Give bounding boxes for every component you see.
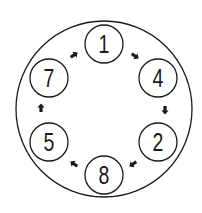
arrow-icon [69, 49, 80, 60]
node-1: 1 [85, 25, 123, 63]
node-label: 5 [44, 129, 55, 157]
arrow-icon [161, 106, 168, 115]
arrow-icon [127, 159, 138, 170]
node-label: 7 [44, 65, 55, 93]
node-8: 8 [85, 156, 123, 194]
node-2: 2 [139, 123, 177, 161]
circular-sequence-diagram: 142857 [0, 0, 202, 213]
arrow-icon [37, 104, 44, 113]
arrow-icon [130, 51, 141, 62]
arrow-icon [68, 158, 79, 169]
node-4: 4 [139, 59, 177, 97]
node-5: 5 [30, 123, 68, 161]
node-7: 7 [30, 59, 68, 97]
node-label: 8 [99, 162, 110, 190]
node-label: 1 [99, 31, 110, 59]
node-label: 4 [153, 65, 164, 93]
node-label: 2 [153, 129, 164, 157]
